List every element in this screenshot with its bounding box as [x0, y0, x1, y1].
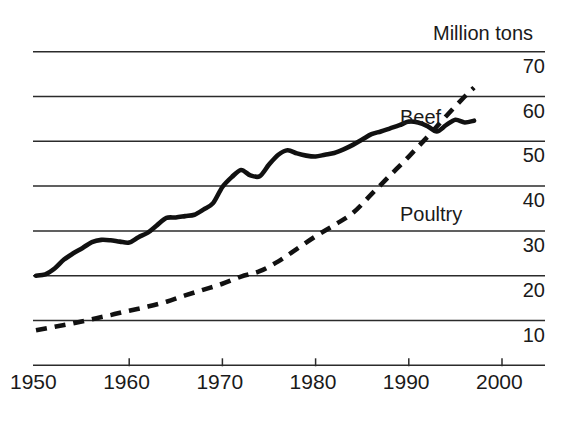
chart-container: Million tons Beef Poultry 70605040302010…	[0, 0, 564, 421]
x-axis-tick-label: 1960	[103, 370, 150, 394]
chart-plot-area	[0, 0, 564, 421]
y-axis-tick-label: 70	[500, 55, 545, 78]
y-axis-tick-label: 60	[500, 100, 545, 123]
x-axis-tick-label: 1950	[10, 370, 57, 394]
y-axis-tick-label: 50	[500, 144, 545, 167]
y-axis-tick-label: 40	[500, 189, 545, 212]
x-axis-tick-label: 1970	[196, 370, 243, 394]
gridline-group	[33, 52, 545, 366]
series-line-beef	[36, 120, 474, 276]
x-axis-tick-label: 2000	[476, 370, 523, 394]
series-label-beef: Beef	[400, 106, 441, 129]
y-axis-tick-label: 10	[500, 324, 545, 347]
series-label-poultry: Poultry	[400, 203, 462, 226]
x-axis-tick-label: 1990	[383, 370, 430, 394]
unit-label: Million tons	[433, 22, 533, 45]
y-axis-tick-label: 30	[500, 234, 545, 257]
y-axis-tick-label: 20	[500, 279, 545, 302]
x-axis-tick-label: 1980	[290, 370, 337, 394]
